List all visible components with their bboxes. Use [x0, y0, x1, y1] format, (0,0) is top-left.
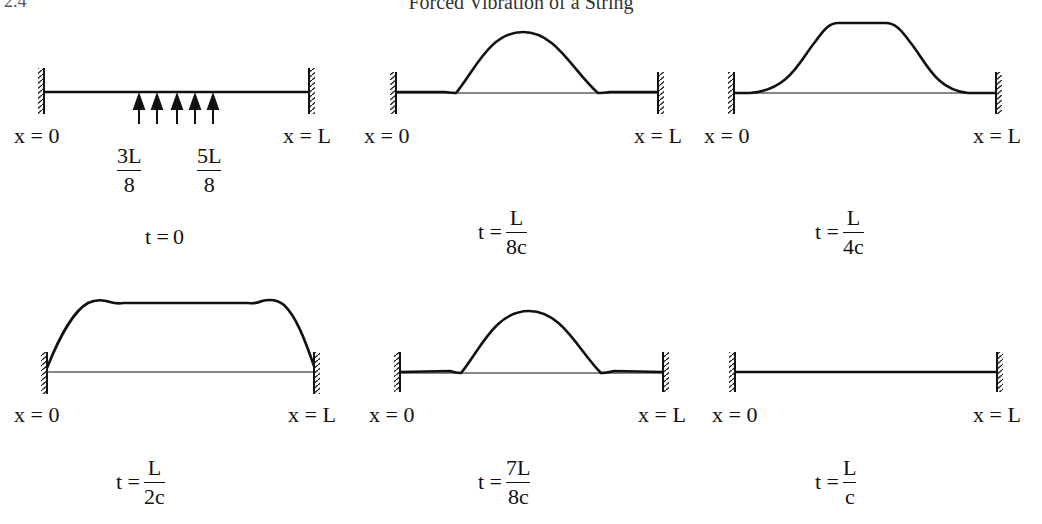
- fraction-numerator: L: [148, 456, 161, 479]
- string-displacement-curve: [400, 311, 663, 373]
- time-value: 0: [173, 224, 184, 250]
- fraction-numerator: L: [843, 456, 856, 479]
- string-displacement-curve: [734, 23, 996, 93]
- fixed-support-left-icon: [390, 72, 396, 114]
- string-vibration-diagram: [0, 0, 1042, 524]
- left-end-label: x = 0: [14, 402, 59, 428]
- right-end-label: x = L: [288, 402, 336, 428]
- time-fraction: L c: [843, 456, 856, 508]
- time-label-L-c: t = L c: [815, 456, 856, 508]
- fraction-denominator: 8c: [508, 485, 529, 508]
- left-end-label: x = 0: [704, 123, 749, 149]
- fixed-support-right-icon: [997, 352, 1003, 392]
- impulse-end-fraction: 5L 8: [197, 144, 221, 196]
- time-label-7L-8c: t = 7L 8c: [478, 456, 530, 508]
- time-label-L-4c: t = L 4c: [815, 206, 864, 258]
- left-end-label: x = 0: [364, 123, 409, 149]
- panel-t-7L-8c: [394, 311, 669, 392]
- fraction-bar: [843, 482, 856, 483]
- fraction-bar: [843, 232, 864, 233]
- fraction-denominator: c: [845, 485, 855, 508]
- impulse-arrows-icon: [134, 95, 218, 124]
- fraction-bar: [506, 232, 527, 233]
- time-lhs: t =: [145, 224, 169, 250]
- time-lhs: t =: [116, 469, 140, 495]
- time-fraction: L 2c: [144, 456, 165, 508]
- panel-t-L-8c: [390, 32, 664, 114]
- right-end-label: x = L: [638, 402, 686, 428]
- fraction-bar: [144, 482, 165, 483]
- right-end-label: x = L: [634, 123, 682, 149]
- fixed-support-left-icon: [41, 352, 47, 394]
- left-end-label: x = 0: [369, 402, 414, 428]
- impulse-start-fraction: 3L 8: [117, 144, 141, 196]
- fraction-numerator: 7L: [506, 456, 530, 479]
- right-end-label: x = L: [973, 123, 1021, 149]
- fraction-denominator: 2c: [144, 485, 165, 508]
- time-label-t0: t = 0: [145, 224, 184, 250]
- time-lhs: t =: [815, 219, 839, 245]
- panel-t-L-2c: [41, 300, 320, 394]
- time-label-L-8c: t = L 8c: [478, 206, 527, 258]
- fraction-denominator: 8: [204, 173, 215, 196]
- string-displacement-curve: [396, 32, 658, 93]
- fixed-support-right-icon: [996, 72, 1002, 114]
- fixed-support-left-icon: [728, 72, 734, 114]
- panel-t-L-4c: [728, 23, 1002, 114]
- fixed-support-right-icon: [309, 68, 315, 114]
- panel-t0: [38, 68, 315, 124]
- left-end-label: x = 0: [14, 123, 59, 149]
- fixed-support-right-icon: [663, 352, 669, 392]
- fraction-numerator: L: [847, 206, 860, 229]
- time-fraction: L 8c: [506, 206, 527, 258]
- time-fraction: 7L 8c: [506, 456, 530, 508]
- fraction-bar: [197, 170, 221, 171]
- fraction-numerator: 5L: [197, 144, 221, 167]
- panel-t-L-c: [729, 352, 1003, 392]
- fixed-support-right-icon: [314, 352, 320, 394]
- fraction-bar: [506, 482, 530, 483]
- string-displacement-curve: [47, 300, 314, 368]
- fraction-numerator: L: [510, 206, 523, 229]
- time-fraction: L 4c: [843, 206, 864, 258]
- fraction-denominator: 8: [124, 173, 135, 196]
- time-label-L-2c: t = L 2c: [116, 456, 165, 508]
- fixed-support-left-icon: [394, 352, 400, 392]
- right-end-label: x = L: [283, 123, 331, 149]
- fixed-support-right-icon: [658, 72, 664, 114]
- fixed-support-left-icon: [38, 68, 44, 114]
- time-lhs: t =: [478, 469, 502, 495]
- fraction-denominator: 8c: [506, 235, 527, 258]
- left-end-label: x = 0: [712, 402, 757, 428]
- fraction-numerator: 3L: [117, 144, 141, 167]
- right-end-label: x = L: [973, 402, 1021, 428]
- fraction-denominator: 4c: [843, 235, 864, 258]
- fraction-bar: [117, 170, 141, 171]
- time-lhs: t =: [478, 219, 502, 245]
- time-lhs: t =: [815, 469, 839, 495]
- fixed-support-left-icon: [729, 352, 735, 392]
